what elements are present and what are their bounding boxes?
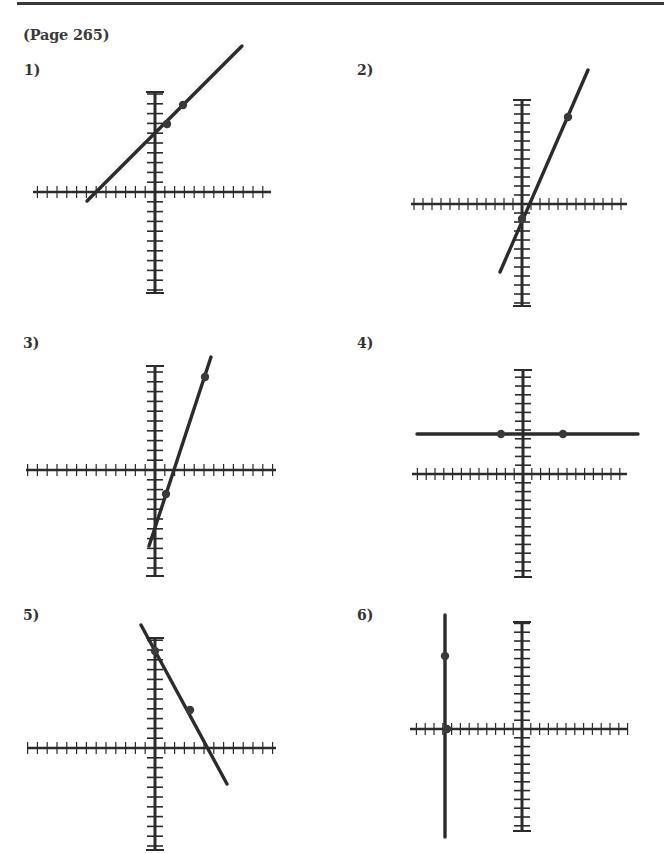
plotted-point: [559, 430, 567, 438]
plotted-point: [497, 430, 505, 438]
graph-3: [26, 357, 276, 576]
plotted-point: [162, 490, 170, 498]
plotted-point: [518, 215, 526, 223]
plotted-point: [179, 101, 187, 109]
plotted-point: [163, 120, 171, 128]
plotted-point: [151, 647, 159, 655]
plotted-point: [443, 725, 451, 733]
coordinate-axes: [28, 638, 276, 850]
plotted-point: [201, 373, 209, 381]
plotted-point: [564, 113, 572, 121]
coordinate-axes: [411, 100, 627, 306]
coordinate-axes: [412, 370, 627, 577]
graph-5: [28, 625, 276, 850]
graph-4: [412, 370, 638, 577]
plotted-point: [186, 706, 194, 714]
graphs-canvas: [0, 0, 664, 853]
graph-1: [33, 46, 271, 293]
plotted-line: [149, 357, 211, 546]
coordinate-axes: [33, 92, 271, 293]
plotted-point: [441, 652, 449, 660]
graph-2: [411, 70, 627, 306]
graph-6: [410, 615, 628, 837]
